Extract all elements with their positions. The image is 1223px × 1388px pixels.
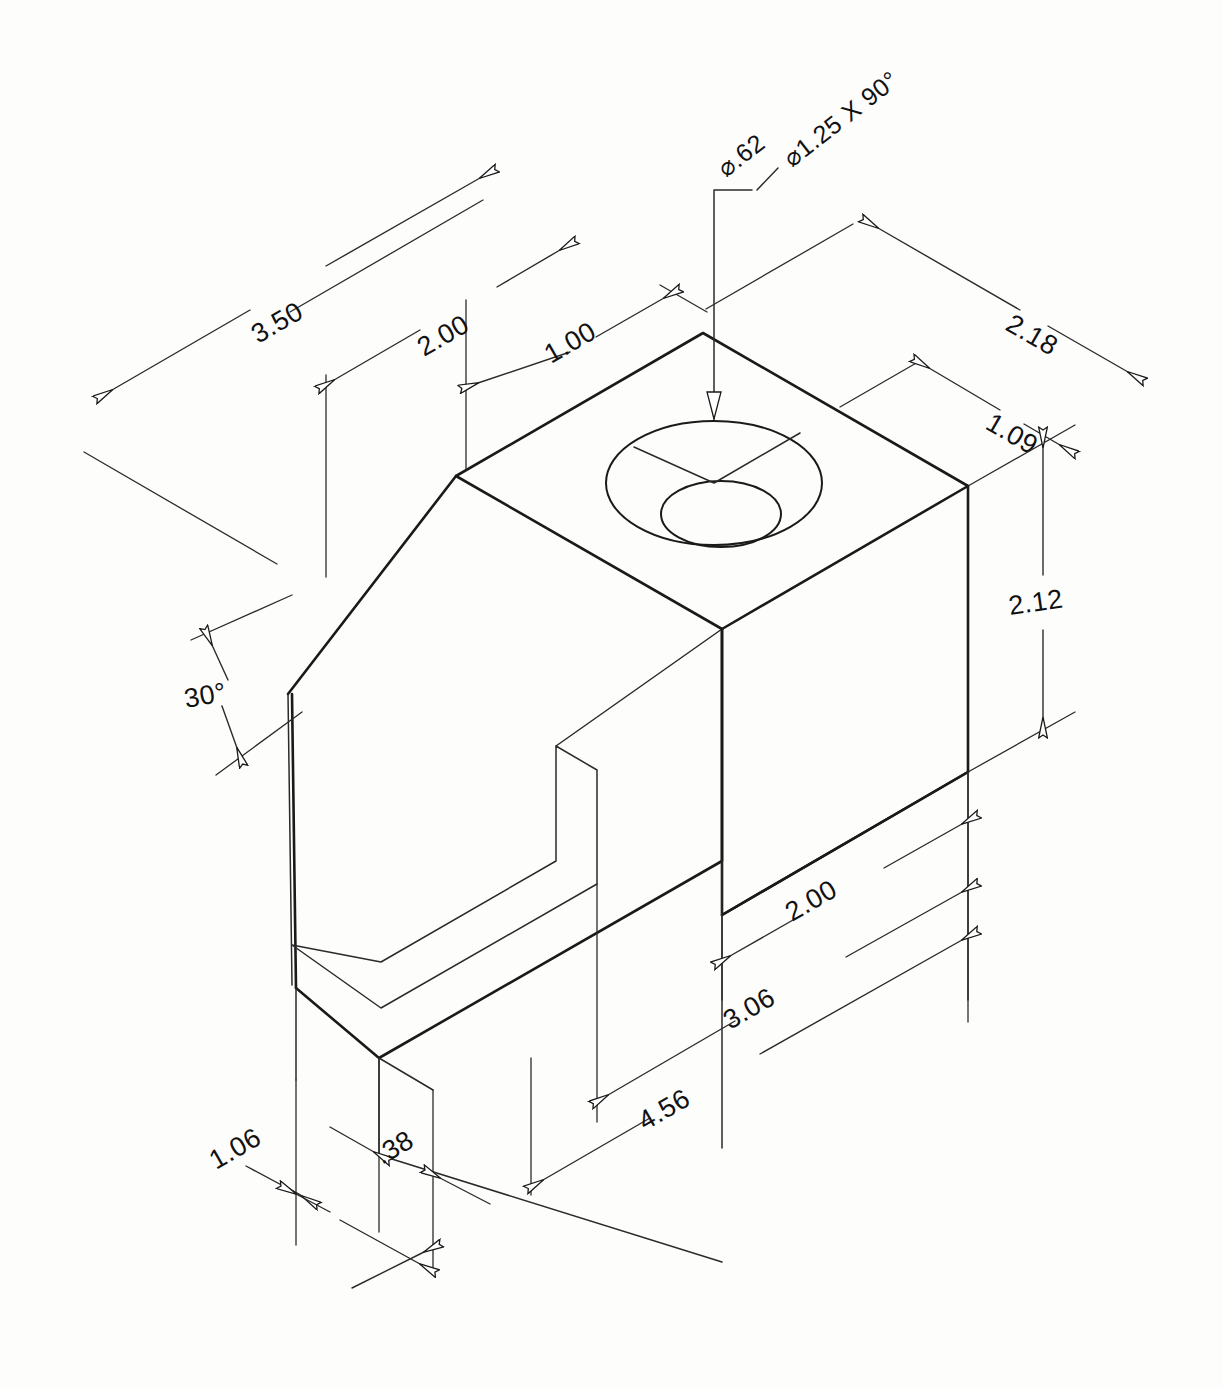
dimline-106-base-r2: [352, 1252, 424, 1288]
dimline-2-00-side-l: [730, 916, 800, 956]
hole-callout-group: ⌀.62 ⌀1.25 X 90°: [707, 65, 903, 419]
base-ledge: [379, 1058, 433, 1090]
front-diagonal-edge: [556, 629, 722, 746]
dimline-106-tail: [246, 1166, 302, 1196]
left-chamfer-edge-b: [292, 694, 296, 988]
dimension-label-38: .38: [370, 1125, 419, 1171]
extline-2-18-a: [706, 224, 853, 309]
dimline-38-l: [330, 1127, 374, 1152]
dimline-106-base-r: [340, 1220, 420, 1264]
dimension-group-top-right: 2.18 1.09: [706, 224, 1128, 460]
dimline-2-00-side-r: [884, 824, 962, 868]
callout-countersink-spec: ⌀1.25 X 90°: [778, 65, 904, 172]
dimline-4-56-r: [760, 940, 962, 1054]
dimension-label-3-06: 3.06: [718, 982, 780, 1035]
dimension-label-1-06: 1.06: [204, 1122, 266, 1175]
right-face-outline: [722, 486, 968, 915]
dimension-label-2-18: 2.18: [1001, 308, 1063, 361]
extline-3-50-b: [290, 200, 483, 312]
extline-30deg-a: [191, 595, 292, 640]
extline-1-00-b: [660, 285, 707, 312]
drawing-sheet: ⌀.62 ⌀1.25 X 90° 3.50 2.00 1.00: [0, 0, 1223, 1388]
front-notch: [292, 746, 597, 1008]
dimline-4-56-l: [543, 1118, 650, 1180]
dimension-label-2-12: 2.12: [1007, 584, 1065, 621]
dimline-2-00-top-l: [334, 330, 420, 380]
countersink-bracket: [757, 168, 778, 190]
part-geometry: [288, 333, 968, 1262]
hole-centerline: [634, 433, 800, 483]
extline-2-12-bot: [968, 712, 1075, 772]
dimension-label-1-09: 1.09: [981, 407, 1043, 460]
right-face-step-line: [722, 772, 968, 915]
dimline-3-50: [112, 310, 250, 390]
dimension-label-3-50: 3.50: [246, 296, 308, 349]
dimline-1-09-u: [929, 368, 1000, 410]
dimension-group-angle: 30°: [182, 595, 302, 775]
dimline-2-00-top-r: [497, 250, 560, 287]
hole-inner-ellipse: [661, 481, 781, 547]
dimline-1-00-r: [596, 298, 664, 337]
dimension-label-2-00-side: 2.00: [780, 874, 842, 927]
isometric-drawing-canvas: ⌀.62 ⌀1.25 X 90° 3.50 2.00 1.00: [0, 0, 1223, 1388]
hole-callout-arrow: [707, 392, 721, 419]
dimline-3-50-r: [326, 178, 480, 266]
dimension-label-2-00-top: 2.00: [412, 309, 474, 362]
top-bevel-edge: [288, 476, 456, 694]
dimension-group-lower-left: .38 1.06: [204, 1058, 490, 1288]
base-right-face: [722, 772, 968, 1148]
extline-1-09-a: [840, 362, 918, 407]
dimline-3-06-l: [608, 1021, 735, 1095]
dimension-group-height: 2.12: [968, 425, 1075, 772]
dimline-30deg-up: [212, 645, 228, 680]
dimline-3-06-r: [846, 892, 962, 957]
dimension-label-1-00: 1.00: [539, 316, 601, 369]
dimline-106-base-l: [296, 1194, 330, 1212]
extline-3-50-a: [84, 452, 277, 564]
dimline-2-18-u: [878, 228, 1020, 310]
dimension-group-top-left: 3.50 2.00 1.00: [84, 178, 707, 577]
callout-hole-diameter: ⌀.62: [712, 128, 770, 182]
dimline-30deg-dn: [222, 706, 237, 748]
dimension-label-30deg: 30°: [182, 677, 229, 714]
hole-callout-leader: [714, 190, 752, 419]
dimension-label-4-56: 4.56: [633, 1083, 695, 1136]
